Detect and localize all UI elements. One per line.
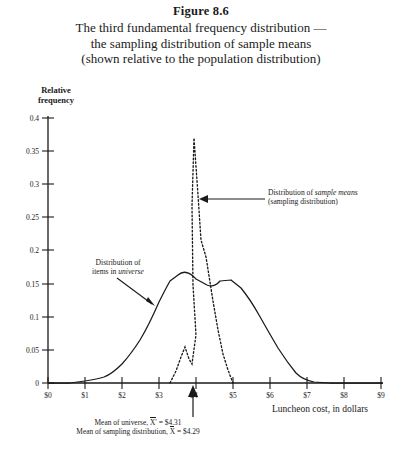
- overbar: [170, 426, 174, 427]
- x-tick-label-6: $6: [266, 391, 274, 400]
- sampling-distribution-callout: Distribution of sample means (sampling d…: [268, 188, 358, 206]
- universe-distribution-curve: [48, 272, 383, 383]
- mean-annotations: Mean of universe, X′ = $4.31 Mean of sam…: [0, 418, 276, 437]
- overbar: [150, 417, 156, 418]
- mean-of-sampling-distribution-note: Mean of sampling distribution, X = $4.29: [0, 427, 276, 436]
- y-tick-label-0.1: 0.1: [30, 313, 40, 322]
- universe-callout-line-1: Distribution of: [66, 258, 170, 267]
- mean-sampling-symbol: X: [170, 427, 175, 436]
- x-tick-label-8: $8: [340, 391, 348, 400]
- mean-universe-text: Mean of universe,: [95, 418, 149, 427]
- plot-area: 0 0.05 0.1 0.15 0.2 0.25 0.3 0.35 0.4 $0…: [0, 0, 402, 457]
- x-tick-label-0: $0: [44, 391, 52, 400]
- x-tick-label-5: $5: [229, 391, 237, 400]
- mean-marker-arrow: [188, 385, 198, 417]
- x-tick-label-3: $3: [155, 391, 163, 400]
- sampling-distribution-curve: [170, 138, 233, 383]
- mean-sampling-value: = $4.29: [177, 427, 200, 436]
- universe-callout-prefix: items in: [92, 267, 118, 276]
- sampling-callout-prefix: Distribution of: [268, 188, 315, 197]
- y-tick-label-0.4: 0.4: [30, 114, 40, 123]
- mean-of-universe-note: Mean of universe, X′ = $4.31: [0, 418, 276, 427]
- mean-sampling-text: Mean of sampling distribution,: [76, 427, 168, 436]
- x-tick-label-9: $9: [377, 391, 385, 400]
- universe-callout-leader: [117, 278, 155, 306]
- universe-callout-line-2: items in universe: [66, 267, 170, 276]
- universe-distribution-callout: Distribution of items in universe: [66, 258, 170, 276]
- y-tick-label-0.2: 0.2: [30, 246, 40, 255]
- y-tick-label-0.15: 0.15: [26, 280, 39, 289]
- sampling-callout-line-1: Distribution of sample means: [268, 188, 358, 197]
- y-tick-label-0.25: 0.25: [26, 213, 39, 222]
- sampling-callout-italic: sample means: [315, 188, 358, 197]
- sampling-callout-leader: [199, 195, 265, 203]
- x-axis-caption: Luncheon cost, in dollars: [272, 404, 368, 414]
- x-tick-label-1: $1: [81, 391, 89, 400]
- y-tick-label-0.35: 0.35: [26, 147, 39, 156]
- x-tick-label-2: $2: [118, 391, 126, 400]
- universe-callout-italic: universe: [118, 267, 144, 276]
- y-tick-label-0.3: 0.3: [30, 180, 40, 189]
- sampling-callout-line-2: (sampling distribution): [268, 197, 358, 206]
- y-tick-label-0: 0: [35, 379, 39, 388]
- x-tick-label-7: $7: [303, 391, 311, 400]
- figure-container: Figure 8.6 The third fundamental frequen…: [0, 0, 402, 457]
- mean-universe-symbol: X′: [150, 418, 157, 427]
- y-tick-label-0.05: 0.05: [26, 346, 39, 355]
